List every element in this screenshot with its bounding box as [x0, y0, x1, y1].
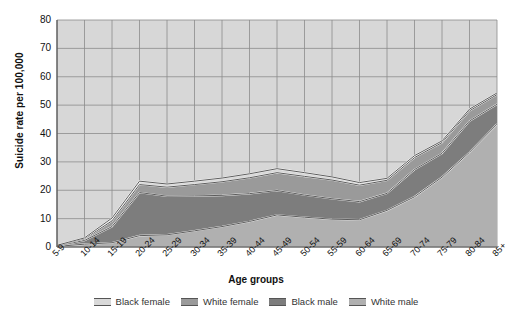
legend-swatch-icon [349, 298, 366, 306]
legend-label: White female [203, 296, 258, 307]
suicide-rate-area-chart: Suicide rate per 100,000 010203040506070… [0, 0, 512, 319]
y-tick-label: 40 [25, 129, 51, 139]
legend-swatch-icon [181, 298, 198, 306]
plot-area [0, 0, 512, 319]
y-axis-title: Suicide rate per 100,000 [14, 16, 25, 206]
legend-label: Black female [116, 296, 170, 307]
y-tick-label: 50 [25, 100, 51, 110]
y-tick-label: 10 [25, 214, 51, 224]
legend-item[interactable]: Black female [94, 296, 170, 307]
y-tick-label: 60 [25, 72, 51, 82]
chart-legend: Black femaleWhite femaleBlack maleWhite … [0, 296, 512, 307]
x-axis-title: Age groups [0, 274, 512, 285]
y-tick-label: 80 [25, 15, 51, 25]
legend-label: White male [371, 296, 419, 307]
legend-item[interactable]: White female [181, 296, 258, 307]
y-tick-label: 30 [25, 157, 51, 167]
legend-swatch-icon [269, 298, 286, 306]
legend-item[interactable]: Black male [269, 296, 337, 307]
y-tick-label: 70 [25, 43, 51, 53]
legend-swatch-icon [94, 298, 111, 306]
y-tick-label: 0 [25, 242, 51, 252]
y-tick-label: 20 [25, 185, 51, 195]
legend-item[interactable]: White male [349, 296, 419, 307]
legend-label: Black male [291, 296, 337, 307]
